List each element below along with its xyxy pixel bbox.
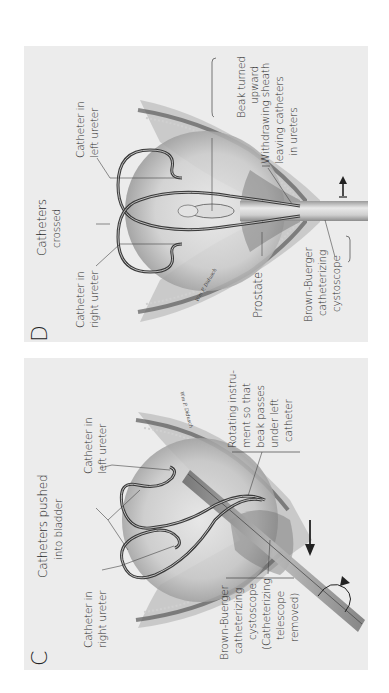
svg-text:beak passes: beak passes <box>254 385 266 448</box>
svg-text:Catheter in: Catheter in <box>82 417 94 474</box>
svg-text:right ureter: right ureter <box>96 590 108 648</box>
svg-text:cystoscope: cystoscope <box>246 583 258 640</box>
svg-text:ment so that: ment so that <box>240 383 252 448</box>
svg-text:Catheter in: Catheter in <box>74 271 86 328</box>
svg-text:leaving catheters: leaving catheters <box>273 76 285 164</box>
panel-c: Wm P. Didusch C Catheters pushed into bl… <box>24 358 368 670</box>
svg-text:Withdrawing sheath: Withdrawing sheath <box>259 63 271 164</box>
svg-text:left ureter: left ureter <box>96 423 108 474</box>
svg-text:Catheters pushed: Catheters pushed <box>36 475 50 578</box>
svg-text:removed): removed) <box>288 593 300 642</box>
svg-text:Catheter in: Catheter in <box>74 101 86 158</box>
cystoscope-sheath-d <box>240 201 368 221</box>
svg-text:left ureter: left ureter <box>88 107 100 158</box>
beak-tip-d <box>178 205 198 217</box>
svg-text:Catheters: Catheters <box>35 199 49 256</box>
svg-text:cystoscope: cystoscope <box>330 255 342 312</box>
svg-text:in ureters: in ureters <box>287 108 299 156</box>
svg-text:catheter: catheter <box>282 398 294 442</box>
svg-text:Brown-Buerger: Brown-Buerger <box>218 584 230 660</box>
svg-text:into bladder: into bladder <box>52 498 64 560</box>
svg-text:under left: under left <box>268 399 280 448</box>
anatomical-illustration: Wm P. Didusch D Catheters crossed Cathet… <box>0 0 389 693</box>
svg-text:catheterizing: catheterizing <box>232 588 244 654</box>
svg-text:Prostate: Prostate <box>251 272 265 318</box>
svg-text:Rotating instru-: Rotating instru- <box>226 370 238 448</box>
svg-text:crossed: crossed <box>50 209 62 248</box>
svg-text:Brown-Buerger: Brown-Buerger <box>302 246 314 322</box>
svg-text:telescope: telescope <box>274 591 286 640</box>
label-prostate-d: Prostate <box>251 272 265 318</box>
label-cystoscope-d: Brown-Buerger catheterizing cystoscope <box>302 246 342 322</box>
svg-text:catheterizing: catheterizing <box>316 250 328 316</box>
panel-letter-d: D <box>27 325 52 342</box>
svg-text:Catheter in: Catheter in <box>82 591 94 648</box>
svg-text:Beak turned: Beak turned <box>235 56 247 118</box>
figure-page: Wm P. Didusch D Catheters crossed Cathet… <box>0 0 389 693</box>
panel-d: Wm P. Didusch D Catheters crossed Cathet… <box>24 46 368 342</box>
svg-text:right ureter: right ureter <box>88 270 100 328</box>
svg-text:(Catheterizing: (Catheterizing <box>260 579 272 651</box>
panel-letter-c: C <box>27 651 52 666</box>
